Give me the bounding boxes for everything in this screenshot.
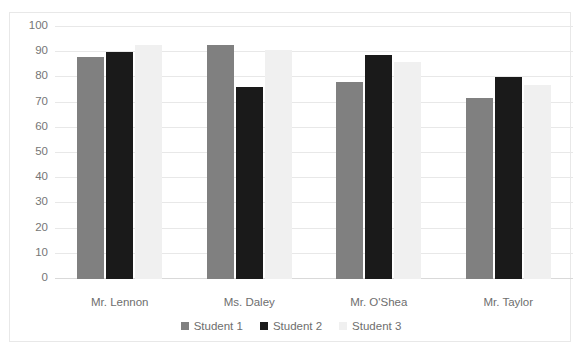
y-axis-tick-label: 0 [18, 272, 48, 283]
legend-swatch-icon [260, 322, 268, 330]
legend-label: Student 1 [194, 320, 243, 332]
chart-legend: Student 1Student 2Student 3 [10, 320, 572, 332]
bar[interactable] [495, 77, 522, 279]
y-axis: 1009080706050403020100 [10, 26, 48, 291]
legend-item[interactable]: Student 1 [181, 320, 243, 332]
legend-label: Student 2 [273, 320, 322, 332]
bar[interactable] [106, 52, 133, 279]
x-axis-category-label: Ms. Daley [185, 296, 315, 308]
y-axis-tick-label: 80 [18, 70, 48, 81]
y-axis-tick-label: 70 [18, 96, 48, 107]
bar[interactable] [135, 45, 162, 279]
bar[interactable] [336, 82, 363, 279]
legend-swatch-icon [181, 322, 189, 330]
legend-label: Student 3 [352, 320, 401, 332]
legend-item[interactable]: Student 2 [260, 320, 322, 332]
y-axis-tick-label: 30 [18, 196, 48, 207]
bar[interactable] [236, 87, 263, 279]
legend-swatch-icon [339, 322, 347, 330]
legend-item[interactable]: Student 3 [339, 320, 401, 332]
bar-group [466, 26, 551, 279]
x-axis-category-label: Mr. Taylor [444, 296, 574, 308]
x-axis-category-label: Mr. Lennon [55, 296, 185, 308]
bar[interactable] [524, 85, 551, 279]
clipped-title-row [0, 0, 581, 9]
y-axis-tick-label: 50 [18, 146, 48, 157]
x-axis-category-label: Mr. O'Shea [314, 296, 444, 308]
y-axis-tick-label: 100 [18, 20, 48, 31]
y-axis-tick-label: 20 [18, 222, 48, 233]
y-axis-tick-label: 60 [18, 121, 48, 132]
bar[interactable] [77, 57, 104, 279]
y-axis-tick-label: 10 [18, 247, 48, 258]
x-axis: Mr. LennonMs. DaleyMr. O'SheaMr. Taylor [55, 296, 573, 316]
y-axis-tick-label: 90 [18, 45, 48, 56]
bar-group [336, 26, 421, 279]
bar[interactable] [265, 50, 292, 279]
y-axis-tick-label: 40 [18, 171, 48, 182]
bar[interactable] [466, 98, 493, 279]
bar[interactable] [207, 45, 234, 279]
bar[interactable] [394, 62, 421, 279]
bar-group [77, 26, 162, 279]
bar-group [207, 26, 292, 279]
bars-layer [55, 26, 573, 279]
chart-container: 1009080706050403020100 Mr. LennonMs. Dal… [9, 12, 571, 342]
bar[interactable] [365, 55, 392, 279]
